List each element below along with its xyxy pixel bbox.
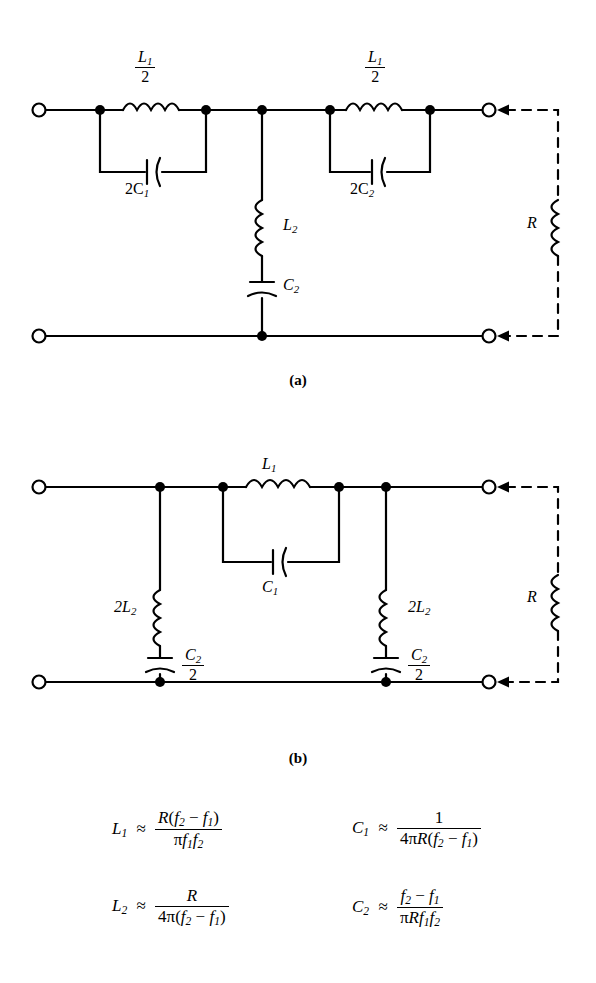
node-dot-b2 xyxy=(218,482,228,492)
node-dot-a5 xyxy=(425,105,435,115)
inductor-L1-half-left-a xyxy=(123,104,179,111)
inductor-2L2-left-b xyxy=(154,590,161,646)
formula-C1: C1 ≈ 1 4πR(f2 − f1) xyxy=(352,808,481,850)
label-L1-half-right-a: L1 2 xyxy=(365,48,385,86)
cap-plate-right-C1-b xyxy=(283,548,287,576)
wire-cap-left-down-b xyxy=(223,487,271,562)
label-L1-b: L1 xyxy=(262,455,276,474)
cap-plate-bottom-C2-a xyxy=(248,293,276,297)
arrow-head-bottom-b xyxy=(497,677,509,688)
node-dot-a6 xyxy=(257,331,267,341)
label-2C1-a: 2C1 xyxy=(125,180,149,199)
terminal-output-top-b xyxy=(483,481,496,494)
node-dot-a3 xyxy=(257,105,267,115)
terminal-output-bottom-b xyxy=(483,676,496,689)
node-dot-b3 xyxy=(334,482,344,492)
wire-cap-right-down-b xyxy=(288,487,339,562)
inductor-L2-a xyxy=(256,200,263,256)
circuit-diagram-a xyxy=(0,0,596,360)
node-dot-b1 xyxy=(155,482,165,492)
label-R-b: R xyxy=(527,588,537,606)
cap-plate-bottom-C2half-right-b xyxy=(372,669,400,673)
node-dot-b5 xyxy=(155,677,165,687)
terminal-input-bottom-a xyxy=(33,330,46,343)
formula-L2: L2 ≈ R 4π(f2 − f1) xyxy=(112,886,229,928)
wire-cap2-right-down-a xyxy=(387,110,430,172)
terminal-output-bottom-a xyxy=(483,330,496,343)
inductor-L1-b xyxy=(246,480,310,487)
label-R-a: R xyxy=(527,214,537,232)
label-L1-half-left-a: L1 2 xyxy=(135,48,155,86)
node-dot-b6 xyxy=(381,677,391,687)
label-2L2-left-b: 2L2 xyxy=(114,598,136,617)
label-L2-a: L2 xyxy=(283,216,297,235)
label-C2-half-right-b: C2 2 xyxy=(408,646,430,684)
node-dot-b4 xyxy=(381,482,391,492)
cap-plate-right-2C2 xyxy=(382,158,386,186)
load-wire-top-a xyxy=(506,110,558,200)
node-dot-a1 xyxy=(95,105,105,115)
arrow-head-top-b xyxy=(497,482,509,493)
label-2C2-a: 2C2 xyxy=(350,180,374,199)
circuit-diagram-b xyxy=(0,440,596,740)
label-C2-half-left-b: C2 2 xyxy=(182,646,204,684)
terminal-input-top-b xyxy=(33,481,46,494)
arrow-head-bottom-a xyxy=(497,331,509,342)
formula-block: L1 ≈ R(f2 − f1) πf1f2 C1 ≈ 1 4πR(f2 − f1… xyxy=(0,790,596,975)
label-2L2-right-b: 2L2 xyxy=(408,598,430,617)
label-C1-b: C1 xyxy=(262,578,278,597)
cap-plate-bottom-C2half-left-b xyxy=(146,669,174,673)
wire-cap-right-down-a xyxy=(162,110,206,172)
terminal-input-bottom-b xyxy=(33,676,46,689)
terminal-output-top-a xyxy=(483,104,496,117)
caption-b: (b) xyxy=(248,750,348,767)
wire-cap2-left-down-a xyxy=(330,110,370,172)
node-dot-a4 xyxy=(325,105,335,115)
load-wire-bottom-b xyxy=(506,631,558,682)
resistor-R-b xyxy=(552,575,559,631)
label-C2-a: C2 xyxy=(283,276,299,295)
formula-L1: L1 ≈ R(f2 − f1) πf1f2 xyxy=(112,808,222,851)
wire-cap-left-down-a xyxy=(100,110,145,172)
inductor-2L2-right-b xyxy=(380,590,387,646)
load-wire-top-b xyxy=(506,487,558,575)
figure-sheet: L1 2 L1 2 2C1 2C2 L2 C2 R (a) xyxy=(0,0,596,983)
node-dot-a2 xyxy=(201,105,211,115)
load-wire-bottom-a xyxy=(506,256,558,336)
cap-plate-right-2C1 xyxy=(157,158,161,186)
resistor-R-a xyxy=(552,200,559,256)
formula-C2: C2 ≈ f2 − f1 πRf1f2 xyxy=(352,886,443,929)
inductor-L1-half-right-a xyxy=(346,104,402,111)
terminal-input-top-a xyxy=(33,104,46,117)
caption-a: (a) xyxy=(248,372,348,389)
arrow-head-top-a xyxy=(497,105,509,116)
